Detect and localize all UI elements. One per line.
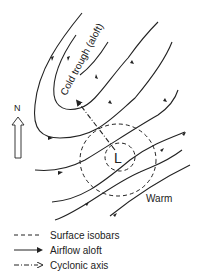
- cyclonic-axis: [78, 102, 115, 150]
- airflow-lines: [34, 13, 190, 220]
- legend-label: Surface isobars: [50, 230, 119, 241]
- warm-label: Warm: [146, 193, 172, 204]
- legend-label: Cyclonic axis: [50, 260, 108, 271]
- legend-item-cyclonic-axis: Cyclonic axis: [14, 259, 108, 271]
- low-pressure-label: L: [114, 150, 122, 166]
- legend-item-isobars: Surface isobars: [14, 229, 119, 241]
- north-arrow-icon: [12, 117, 24, 158]
- legend-item-airflow: Airflow aloft: [14, 244, 102, 256]
- dashed-line-icon: [14, 232, 44, 238]
- solid-arrow-icon: [14, 247, 44, 253]
- north-label: N: [14, 103, 21, 113]
- legend-label: Airflow aloft: [50, 245, 102, 256]
- diagram-figure: N Cold trough (aloft) L Warm Surface iso…: [0, 0, 197, 273]
- dash-dot-arrow-icon: [14, 262, 44, 268]
